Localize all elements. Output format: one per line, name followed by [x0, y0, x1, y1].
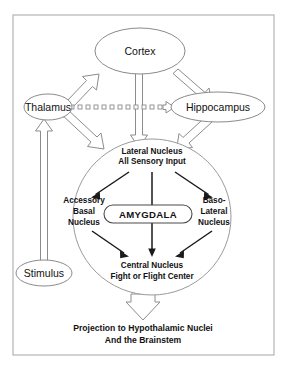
amygdala-circuit-diagram: Cortex Thalamus Hippocampus Stimulus AMY… — [0, 0, 287, 374]
label-thalamus: Thalamus — [25, 101, 71, 113]
label-baso-lateral-line1: Baso- — [203, 196, 226, 205]
diagram-page: Cortex Thalamus Hippocampus Stimulus AMY… — [0, 0, 287, 374]
label-baso-lateral-line3: Nucleus — [198, 218, 230, 227]
label-hippocampus: Hippocampus — [186, 101, 250, 113]
label-accessory-basal-line2: Basal — [73, 207, 95, 216]
connector-thalamus-to-hippocampus — [70, 102, 175, 114]
label-baso-lateral-line2: Lateral — [201, 207, 228, 216]
label-central-nucleus-line1: Central Nucleus — [121, 261, 184, 270]
label-cortex: Cortex — [125, 45, 157, 57]
label-projection-line1: Projection to Hypothalamic Nuclei — [73, 323, 212, 333]
connector-stimulus-to-thalamus — [36, 119, 53, 262]
label-amygdala: AMYGDALA — [119, 209, 177, 220]
label-projection-line2: And the Brainstem — [105, 335, 182, 345]
label-accessory-basal-line1: Accessory — [63, 196, 105, 205]
connector-central-to-projection — [126, 294, 160, 320]
label-central-nucleus-line2: Fight or Flight Center — [110, 272, 194, 281]
label-accessory-basal-line3: Nucleus — [68, 218, 100, 227]
label-lateral-nucleus-line2: All Sensory Input — [118, 157, 186, 166]
label-lateral-nucleus-line1: Lateral Nucleus — [122, 147, 183, 156]
label-stimulus: Stimulus — [24, 267, 64, 279]
